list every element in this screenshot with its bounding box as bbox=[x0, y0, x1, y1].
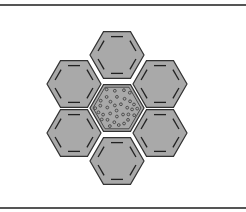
hexagon-lower-left bbox=[47, 110, 101, 157]
hexagon-center bbox=[90, 85, 144, 132]
hexagon-lower-right bbox=[133, 110, 187, 157]
hexagon-upper-right bbox=[133, 61, 187, 108]
hexagon-cluster-diagram bbox=[0, 0, 246, 212]
hexagon-upper-left bbox=[47, 61, 101, 108]
hexagon-top bbox=[90, 32, 144, 79]
hexagon-bottom bbox=[90, 138, 144, 185]
